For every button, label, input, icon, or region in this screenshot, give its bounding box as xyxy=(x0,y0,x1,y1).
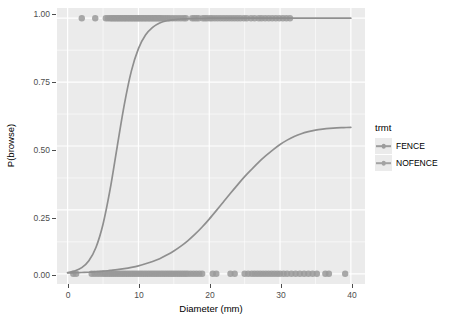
legend-item-label: FENCE xyxy=(396,141,425,151)
x-tick-mark xyxy=(352,284,353,288)
x-axis-title: Diameter (mm) xyxy=(57,303,365,314)
x-tick-mark xyxy=(68,284,69,288)
legend: trmt FENCE NOFENCE xyxy=(375,122,453,172)
legend-item-label: NOFENCE xyxy=(396,158,438,168)
x-tick-mark xyxy=(139,284,140,288)
legend-item-fence[interactable]: FENCE xyxy=(375,138,453,154)
legend-title: trmt xyxy=(375,122,453,133)
x-tick-label: 0 xyxy=(66,290,71,300)
legend-key-icon xyxy=(375,138,392,154)
ggplot-figure: P(browse) 1.00 0.75 0.50 0.25 0.00 0 10 … xyxy=(0,0,456,328)
x-tick-mark xyxy=(281,284,282,288)
x-tick-label: 10 xyxy=(134,290,143,300)
x-tick-label: 40 xyxy=(347,290,356,300)
x-tick-label: 20 xyxy=(205,290,214,300)
x-tick-label: 30 xyxy=(276,290,285,300)
x-tick-mark xyxy=(210,284,211,288)
legend-item-nofence[interactable]: NOFENCE xyxy=(375,155,453,171)
legend-key-icon xyxy=(375,155,392,171)
